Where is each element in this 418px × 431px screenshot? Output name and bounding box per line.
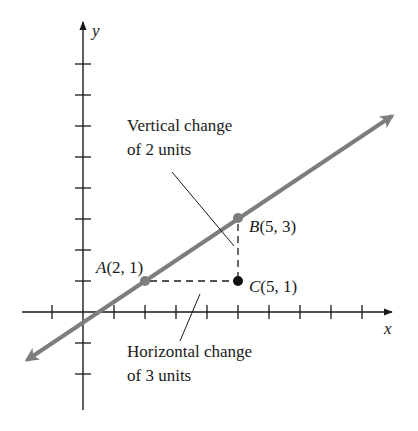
point-c-label: C(5, 1) — [249, 277, 297, 296]
horizontal-change-leader-line — [180, 294, 200, 341]
point-a-label: A(2, 1) — [95, 258, 143, 277]
y-axis-label: y — [90, 21, 100, 40]
slope-diagram: x y A(2, 1) B(5, 3) C(5, 1) Vertical cha… — [0, 0, 418, 431]
point-b-label: B(5, 3) — [249, 217, 296, 236]
point-b — [233, 213, 243, 223]
line-through-a-and-b — [27, 116, 392, 360]
point-a — [140, 276, 150, 286]
vertical-change-annotation: Vertical change of 2 units — [127, 116, 237, 159]
point-c — [233, 276, 243, 286]
horizontal-change-annotation: Horizontal change of 3 units — [127, 342, 256, 385]
vertical-change-leader-line — [172, 172, 234, 246]
x-axis-label: x — [383, 319, 392, 338]
coordinate-plane: x y A(2, 1) B(5, 3) C(5, 1) Vertical cha… — [0, 0, 418, 431]
